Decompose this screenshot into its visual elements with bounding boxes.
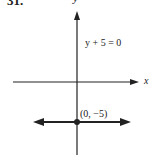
x-axis-arrow-icon <box>130 79 139 85</box>
coordinate-plane <box>0 0 154 155</box>
y-axis <box>74 11 80 155</box>
line-y-minus-5 <box>33 118 131 126</box>
x-axis <box>13 79 139 85</box>
y-axis-arrow-icon <box>74 11 80 20</box>
left-arrow-icon <box>33 118 44 126</box>
right-arrow-icon <box>120 118 131 126</box>
point-marker <box>74 119 80 125</box>
